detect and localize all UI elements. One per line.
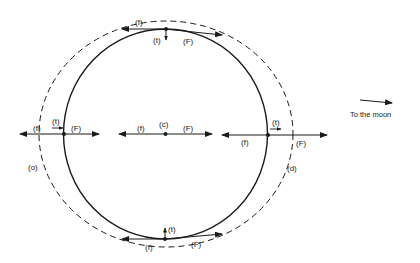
left-point-dot <box>62 132 66 136</box>
bottom-t-label: (t) <box>168 225 176 234</box>
bottom-point-dot <box>163 237 167 241</box>
right-t-label: (t) <box>272 118 280 127</box>
top-t-label: (t) <box>153 36 161 45</box>
tidal-force-diagram: (f) (t) (F) (f) (t) (F) (o) (f) (c) (F) … <box>0 0 420 263</box>
left-point-group: (f) (t) (F) (o) <box>20 117 99 172</box>
center-point-group: (f) (c) (F) <box>119 120 212 136</box>
d-label: (d) <box>287 164 297 173</box>
left-F-label: (F) <box>71 124 82 133</box>
right-f-label: (f) <box>241 138 249 147</box>
bottom-point-group: (t) (f) (F) <box>122 225 222 252</box>
top-F-label: (F) <box>183 37 194 46</box>
right-point-dot <box>266 133 270 137</box>
bottom-f-label: (f) <box>145 243 153 252</box>
left-f-label: (f) <box>33 124 41 133</box>
moon-direction-arrow <box>360 100 392 103</box>
top-point-group: (f) (t) (F) <box>122 18 222 46</box>
center-F-label: (F) <box>183 124 194 133</box>
top-F-arrow <box>165 29 222 35</box>
right-point-group: (f) (t) (F) (d) <box>222 118 327 173</box>
top-f-label: (f) <box>135 18 143 27</box>
moon-direction-label: To the moon <box>350 110 391 119</box>
earth-center-dot <box>164 132 168 136</box>
o-label: (o) <box>28 163 38 172</box>
top-point-dot <box>164 27 168 31</box>
bottom-F-label: (F) <box>191 240 202 249</box>
left-t-label: (t) <box>52 117 60 126</box>
center-c-label: (c) <box>159 120 169 129</box>
moon-direction-indicator: To the moon <box>350 100 392 119</box>
center-f-label: (f) <box>137 124 145 133</box>
right-F-label: (F) <box>296 139 307 148</box>
